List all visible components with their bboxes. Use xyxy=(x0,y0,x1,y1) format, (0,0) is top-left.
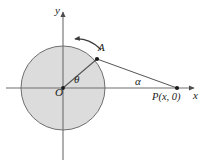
point-p-label: P(x, 0) xyxy=(152,92,181,103)
y-axis-label: y xyxy=(55,5,60,16)
angle-theta-label: θ xyxy=(74,74,79,85)
geometry-figure: y x O A θ α P(x, 0) xyxy=(0,0,208,165)
point-a-label: A xyxy=(98,42,105,53)
origin-label: O xyxy=(55,87,63,98)
x-axis-label: x xyxy=(193,90,198,101)
point-P-marker xyxy=(175,86,179,90)
figure-canvas xyxy=(0,0,208,165)
angle-alpha-label: α xyxy=(135,76,141,87)
point-A-marker xyxy=(95,57,99,61)
